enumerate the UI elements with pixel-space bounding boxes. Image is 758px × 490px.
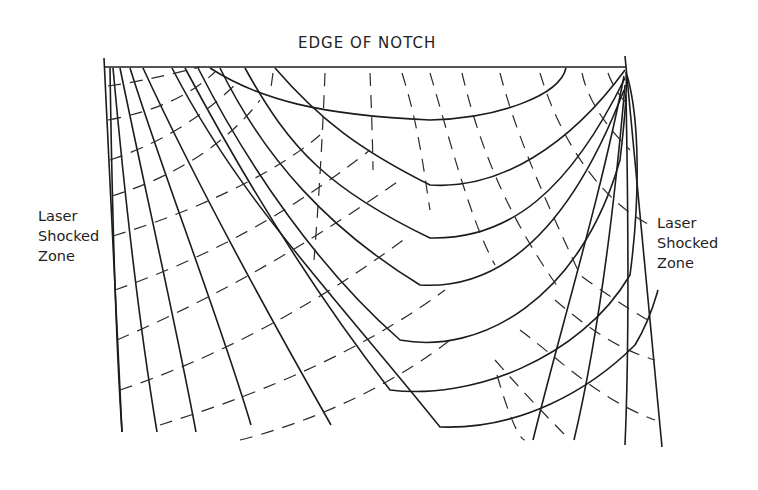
notch-contour-diagram — [0, 0, 758, 490]
right-boundary-line — [625, 56, 662, 447]
dashed-orthogonals — [108, 67, 655, 440]
solid-contours — [110, 68, 658, 445]
